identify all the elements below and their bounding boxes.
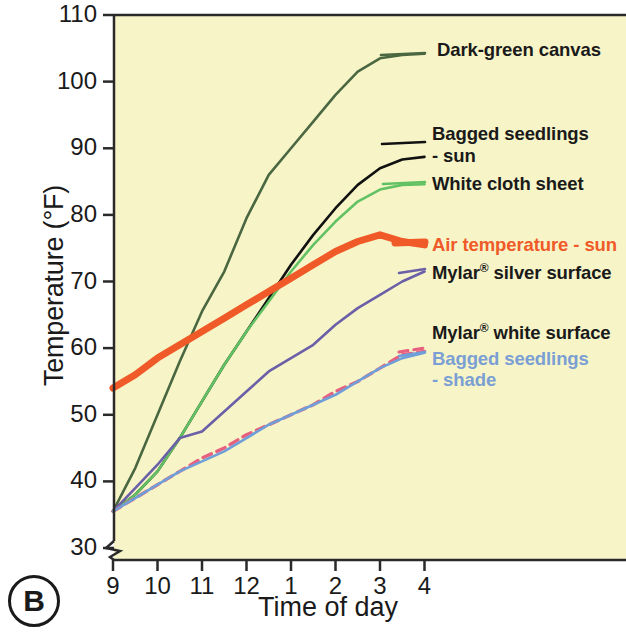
series-line-mylar-white-surface — [113, 351, 425, 511]
registered-mark-icon: ® — [480, 321, 489, 335]
figure-panel-b: Temperature (°F) Time of day 11010090807… — [0, 0, 626, 637]
series-label-bagged-seedlings-sun-line2: - sun — [432, 146, 476, 167]
y-tick-label-40: 40 — [37, 466, 97, 494]
y-tick-label-70: 70 — [37, 267, 97, 295]
x-tick-label-1: 1 — [271, 572, 311, 600]
series-label-mylar-silver-surface: Mylar® silver surface — [432, 262, 612, 284]
series-label-bagged-seedlings-sun-line1: Bagged seedlings — [432, 124, 589, 145]
y-tick-label-90: 90 — [37, 133, 97, 161]
y-tick-label-50: 50 — [37, 400, 97, 428]
x-axis-ticks — [113, 560, 425, 571]
y-tick-label-100: 100 — [37, 67, 97, 95]
legend-line-stubs — [381, 53, 425, 356]
series-label-dark-green-canvas: Dark-green canvas — [437, 40, 601, 61]
y-tick-label-80: 80 — [37, 200, 97, 228]
x-tick-label-11: 11 — [182, 572, 222, 600]
x-tick-label-9: 9 — [93, 572, 133, 600]
series-line-dark-green-canvas — [113, 54, 425, 512]
y-tick-label-30: 30 — [37, 533, 97, 561]
x-tick-label-2: 2 — [316, 572, 356, 600]
series-lines — [113, 54, 425, 512]
series-line-bagged-seedlings-sun — [113, 157, 425, 511]
panel-tag-b: B — [8, 575, 60, 627]
series-line-bagged-seedlings-shade — [113, 353, 425, 512]
y-axis-ticks — [103, 15, 114, 548]
x-tick-label-10: 10 — [138, 572, 178, 600]
stub-bagged-seedlings-sun — [382, 142, 425, 144]
series-line-air-temperature-sun — [113, 235, 425, 388]
y-tick-label-60: 60 — [37, 333, 97, 361]
y-tick-label-110: 110 — [37, 0, 97, 28]
registered-mark-icon: ® — [480, 261, 489, 275]
stub-air-temperature-sun — [395, 242, 425, 243]
series-label-bagged-seedlings-shade-line1: Bagged seedlings — [432, 349, 589, 370]
series-label-mylar-white-surface: Mylar® white surface — [432, 322, 611, 344]
series-line-mylar-silver-surface — [113, 272, 425, 512]
axis-break-mark — [106, 541, 120, 560]
x-tick-label-3: 3 — [360, 572, 400, 600]
series-label-air-temperature-sun: Air temperature - sun — [432, 235, 617, 256]
series-label-bagged-seedlings-shade-line2: - shade — [432, 370, 496, 391]
x-tick-label-4: 4 — [405, 572, 445, 600]
x-tick-label-12: 12 — [227, 572, 267, 600]
series-label-white-cloth-sheet: White cloth sheet — [432, 174, 583, 195]
